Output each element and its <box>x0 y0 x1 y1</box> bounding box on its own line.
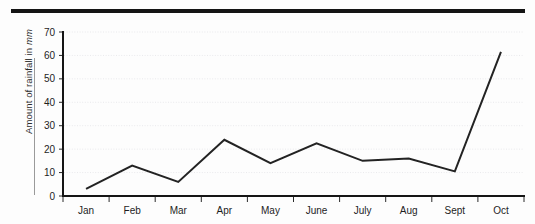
y-tick-label: 40 <box>44 97 56 108</box>
x-tick-label: Oct <box>493 205 509 216</box>
x-tick-label: Feb <box>124 205 142 216</box>
y-tick-label: 70 <box>44 27 56 38</box>
plot-area: 010203040506070 JanFebMarAprMayJuneJulyA… <box>0 16 535 224</box>
y-tick-label: 10 <box>44 167 56 178</box>
y-tick-label: 20 <box>44 144 56 155</box>
y-tick-label: 50 <box>44 73 56 84</box>
x-tick-label: May <box>261 205 280 216</box>
x-tick-label: Jan <box>78 205 94 216</box>
y-axis-tick-labels: 010203040506070 <box>44 27 56 202</box>
gridlines <box>64 32 524 173</box>
x-tick-label: July <box>354 205 372 216</box>
x-tick-label: June <box>306 205 328 216</box>
x-tick-label: Apr <box>217 205 233 216</box>
chart-page: Amount of rainfall in mm 010203040506070… <box>0 0 535 224</box>
y-tick-label: 30 <box>44 120 56 131</box>
x-tick-label: Sept <box>445 205 466 216</box>
x-tick-label: Mar <box>170 205 188 216</box>
rainfall-line-chart: Amount of rainfall in mm 010203040506070… <box>0 16 535 224</box>
x-axis-tick-labels: JanFebMarAprMayJuneJulyAugSeptOct <box>78 205 509 216</box>
y-tick-label: 0 <box>49 191 55 202</box>
x-tick-label: Aug <box>400 205 418 216</box>
rainfall-data-line <box>86 52 501 189</box>
y-tick-label: 60 <box>44 50 56 61</box>
top-horizontal-rule <box>11 9 525 13</box>
